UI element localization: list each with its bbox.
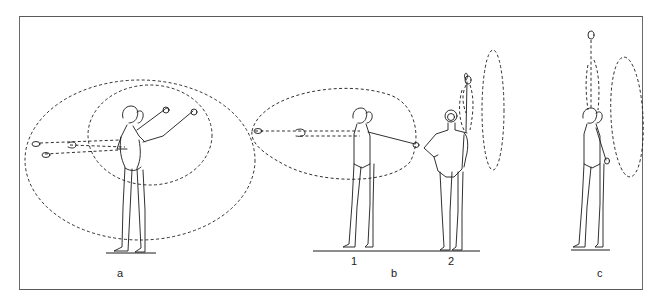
- vertical-trajectory-loop: [608, 56, 646, 178]
- panel-b-position-2-label: 2: [448, 256, 454, 267]
- panel-b-illustration: [252, 50, 504, 251]
- vertical-trajectory-loop: [482, 50, 504, 170]
- panel-c-label: c: [597, 268, 603, 279]
- panel-c-illustration: [571, 31, 646, 250]
- panel-a-label: a: [117, 268, 123, 279]
- panel-b-position-1-label: 1: [351, 256, 357, 267]
- panel-b-label: b: [391, 268, 397, 279]
- gymnastics-club-diagram: [0, 0, 664, 304]
- small-trajectory-loop: [88, 85, 212, 185]
- panel-a-illustration: [25, 80, 255, 253]
- trajectory-loop: [252, 88, 416, 179]
